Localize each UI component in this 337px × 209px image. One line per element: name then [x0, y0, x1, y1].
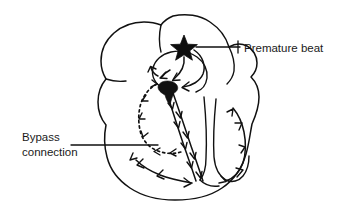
bypass-label-line-1: Bypass — [22, 131, 60, 143]
bypass-label-line-2: connection — [22, 146, 78, 158]
heart-conduction-diagram: Premature beat Bypass connection — [0, 0, 337, 209]
premature-beat-label: Premature beat — [244, 42, 324, 54]
